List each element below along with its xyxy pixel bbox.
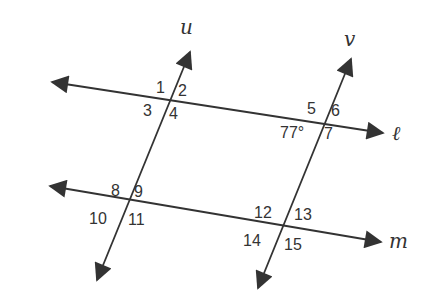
angle-9: 9 (134, 183, 143, 200)
label-l: ℓ (392, 121, 401, 145)
angle-8: 8 (111, 182, 120, 199)
angle-13: 13 (294, 206, 312, 223)
angle-1: 1 (156, 79, 165, 96)
line-v (258, 59, 351, 288)
angle-14: 14 (243, 232, 261, 249)
label-m: m (389, 229, 408, 253)
angle-2: 2 (178, 82, 187, 99)
angle-15: 15 (284, 236, 302, 253)
angle-6: 6 (331, 102, 340, 119)
angle-5: 5 (307, 100, 316, 117)
angle-7: 7 (324, 125, 333, 142)
angle-4: 4 (169, 105, 178, 122)
diagram-canvas: u v ℓ m 1 2 3 4 5 6 77° 7 8 9 10 11 12 1… (0, 0, 427, 304)
angle-3: 3 (143, 102, 152, 119)
label-v: v (344, 27, 356, 51)
geometry-figure: u v ℓ m 1 2 3 4 5 6 77° 7 8 9 10 11 12 1… (0, 0, 427, 304)
angle-10: 10 (89, 210, 107, 227)
angle-12: 12 (254, 204, 272, 221)
label-u: u (180, 15, 193, 39)
angle-11: 11 (128, 211, 145, 228)
angle-given-77: 77° (280, 124, 304, 141)
line-u (97, 52, 190, 280)
